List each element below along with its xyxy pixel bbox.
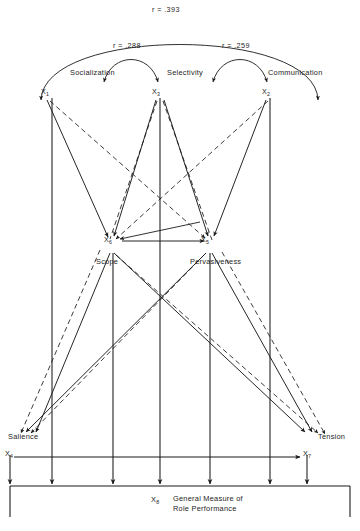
correlation-label-x3-x2: r = .259 bbox=[222, 42, 250, 51]
altpath-x3-to-x6 bbox=[110, 101, 157, 239]
node-symbol-x6: X6 bbox=[104, 236, 112, 246]
node-label-salience: Salience bbox=[8, 432, 38, 441]
node-symbol-x3: X3 bbox=[152, 88, 160, 98]
altpath-x1-to-x5 bbox=[50, 101, 205, 238]
node-label-general-measure-line2: Role Performance bbox=[173, 504, 237, 513]
altpath-x1-to-x4 bbox=[21, 250, 100, 433]
path-x3-to-x6 bbox=[114, 100, 156, 236]
node-label-tension: Tension bbox=[318, 432, 345, 441]
path-x6-to-x4 bbox=[36, 253, 110, 432]
node-label-scope: Scope bbox=[96, 257, 118, 266]
path-x2-to-x5 bbox=[214, 100, 266, 236]
node-label-communication: Communication bbox=[268, 68, 323, 77]
correlation-arc-x3-x2 bbox=[213, 60, 267, 83]
node-label-pervasiveness: Pervasiveness bbox=[190, 257, 241, 266]
path-x5-to-x4 bbox=[26, 253, 206, 432]
path-x5-to-x7 bbox=[212, 253, 312, 432]
altpath-x3-to-x5b bbox=[163, 101, 212, 240]
altpath-x2-to-x7 bbox=[222, 252, 325, 434]
node-label-general-measure-line1: General Measure of bbox=[173, 494, 243, 503]
path-x1-to-x6 bbox=[47, 100, 108, 237]
path-x3-to-x5 bbox=[164, 100, 208, 236]
node-label-selectivity: Selectivity bbox=[167, 68, 203, 77]
altpath-x2-to-x6 bbox=[116, 101, 268, 239]
node-symbol-x1: X1 bbox=[41, 88, 49, 98]
path-diagram-figure: r = .393 r = .288 r = .259 Socialization… bbox=[0, 0, 360, 531]
node-symbol-x5: X5 bbox=[201, 236, 209, 246]
correlation-label-x1-x3: r = .288 bbox=[113, 42, 141, 51]
node-symbol-x2: X2 bbox=[262, 88, 270, 98]
node-symbol-x8: X8 bbox=[151, 495, 159, 506]
altpath-x6-to-x7 bbox=[116, 255, 318, 433]
node-label-socialization: Socialization bbox=[70, 68, 115, 77]
altpath-x5-to-x4 bbox=[31, 255, 204, 433]
node-symbol-x7: X7 bbox=[303, 450, 311, 460]
node-symbol-x4: X4 bbox=[5, 450, 13, 460]
correlation-label-x1-x2: r = .393 bbox=[152, 6, 180, 15]
